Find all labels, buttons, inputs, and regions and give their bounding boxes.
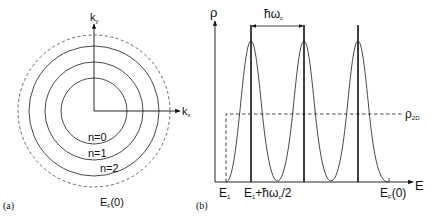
kx-label: kx — [182, 105, 191, 118]
label-n2: n=2 — [100, 162, 119, 174]
label-n1: n=1 — [88, 147, 107, 159]
rho2d-label: ρ2D — [405, 107, 420, 121]
panel-a: ky kx n=0 n=1 n=2 EF(0) (a) — [3, 11, 191, 212]
panel-b: ħωc ρ E ρ2D E1 E1+ħωc/2 EF(0) (b) — [196, 5, 424, 212]
panel-a-label: (a) — [3, 200, 14, 212]
spacing-label: ħωc — [264, 7, 283, 21]
rho2d-step — [226, 114, 402, 182]
fermi-label-a: EF(0) — [100, 196, 124, 209]
tick-label-e1: E1 — [219, 186, 231, 200]
tick-label-e1-half: E1+ħωc/2 — [244, 186, 292, 200]
label-n0: n=0 — [88, 131, 107, 143]
ky-label: ky — [90, 11, 99, 24]
figure: ky kx n=0 n=1 n=2 EF(0) (a) ħωc ρ E ρ2D … — [0, 0, 436, 219]
energy-axis-label: E — [415, 178, 424, 193]
tick-label-ef: EF(0) — [380, 186, 406, 200]
panel-b-label: (b) — [196, 200, 208, 212]
rho-axis-label: ρ — [210, 5, 217, 20]
